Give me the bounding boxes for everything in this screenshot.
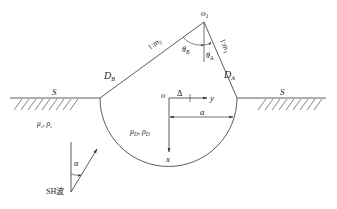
apex-label: o1 xyxy=(201,8,209,19)
theta-b-label: θB xyxy=(182,45,190,55)
incident-angle-label: α xyxy=(74,158,79,168)
radius-label: a xyxy=(200,107,205,117)
x-axis-label: x xyxy=(165,154,170,164)
theta-b-arc xyxy=(183,37,204,45)
origin-label: o xyxy=(161,90,165,100)
y-axis-label: y xyxy=(209,93,214,103)
slope-b-label: 1:m2 xyxy=(146,36,164,53)
ground-surface-left xyxy=(10,98,100,110)
slope-a-label: 1:m1 xyxy=(217,37,232,54)
surface-left-label: S xyxy=(52,87,57,97)
region-b-label: DB xyxy=(103,70,115,82)
theta-a-arc xyxy=(204,42,211,45)
ground-surface-right xyxy=(237,98,326,110)
valley-properties-label: μD, ρD xyxy=(129,127,150,137)
diagram-canvas: o1 θB θA 1:m2 1:m1 DB DA S S μs, ρs μD, … xyxy=(0,0,337,209)
hill-outline xyxy=(100,22,237,98)
region-a-label: DA xyxy=(223,69,235,81)
sh-wave-label: SH波 xyxy=(46,186,64,196)
surface-right-label: S xyxy=(280,87,285,97)
half-space-properties-label: μs, ρs xyxy=(37,119,52,129)
theta-a-label: θA xyxy=(206,51,214,61)
delta-label: Δ xyxy=(177,88,183,98)
